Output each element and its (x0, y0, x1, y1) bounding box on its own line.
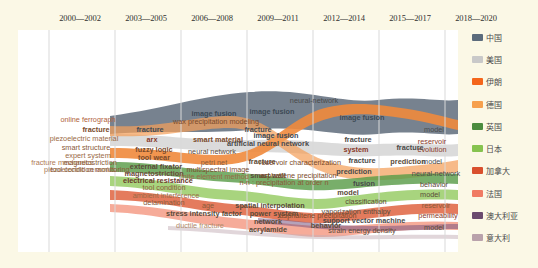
period-label-6: 2015—2017 (389, 13, 431, 23)
period-label-1: 2000—2002 (59, 13, 101, 23)
legend-swatch-icon (472, 212, 483, 219)
legend-item-9[interactable]: 澳大利亚 (472, 204, 538, 226)
legend-label: 日本 (486, 143, 502, 154)
keyword-label: tool wear (138, 154, 170, 162)
keyword-label: image fusion (249, 108, 294, 116)
keyword-label: arx (147, 136, 158, 144)
keyword-label: permeability (418, 212, 457, 220)
legend-swatch-icon (472, 145, 483, 152)
keyword-labels: online ferrographfracturepiezoelectric m… (18, 30, 458, 252)
legend-swatch-icon (472, 190, 483, 197)
keyword-label: reservoir (422, 202, 450, 210)
legend-swatch-icon (472, 34, 483, 41)
keyword-label: fusion (353, 180, 375, 188)
legend-label: 伊朗 (486, 76, 502, 87)
keyword-label: prediction (390, 158, 425, 166)
legend-item-10[interactable]: 意大利 (472, 227, 538, 249)
country-legend: 中国美国伊朗德国英国日本加拿大法国澳大利亚意大利 (472, 26, 538, 249)
keyword-label: neural network (188, 148, 236, 156)
keyword-label: classification (345, 198, 386, 206)
keyword-label: fracture (136, 126, 163, 134)
keyword-label: prediction (336, 168, 371, 176)
legend-item-3[interactable]: 伊朗 (472, 71, 538, 93)
legend-item-7[interactable]: 加拿大 (472, 160, 538, 182)
legend-item-5[interactable]: 英国 (472, 115, 538, 137)
legend-label: 德国 (486, 99, 502, 110)
keyword-label: model (337, 189, 359, 197)
keyword-label: neural-network (412, 170, 460, 178)
keyword-label: fracture (244, 126, 271, 134)
keyword-label: online ferrograph (60, 116, 115, 124)
period-label-4: 2009—2011 (257, 13, 298, 23)
keyword-label: reservoir characterization (259, 159, 341, 167)
keyword-label: ductile fracture (176, 222, 224, 230)
keyword-label: piezoelectric material (50, 135, 119, 143)
legend-label: 法国 (486, 188, 502, 199)
period-label-3: 2006—2008 (191, 13, 233, 23)
keyword-label: n-n : precipitation at order n (239, 179, 328, 187)
keyword-label: delamination (143, 199, 184, 207)
alluvial-chart-stage: 2000—20022003—20052006—20082009—20112012… (0, 0, 538, 268)
legend-label: 意大利 (486, 232, 510, 243)
legend-label: 澳大利亚 (486, 210, 518, 221)
legend-swatch-icon (472, 167, 483, 174)
period-label-2: 2003—2005 (125, 13, 167, 23)
legend-swatch-icon (472, 234, 483, 241)
legend-label: 英国 (486, 121, 502, 132)
keyword-label: artificial neural network (227, 140, 309, 148)
keyword-label: system (343, 146, 368, 154)
legend-label: 中国 (486, 32, 502, 43)
legend-label: 美国 (486, 54, 502, 65)
keyword-label: behavior (420, 181, 448, 189)
legend-item-4[interactable]: 德国 (472, 93, 538, 115)
legend-swatch-icon (472, 78, 483, 85)
keyword-label: model (422, 158, 442, 166)
keyword-label: model (424, 126, 444, 134)
legend-item-2[interactable]: 美国 (472, 48, 538, 70)
keyword-label: model (424, 224, 444, 232)
keyword-label: image fusion (339, 114, 384, 122)
legend-item-1[interactable]: 中国 (472, 26, 538, 48)
period-axis: 2000—20022003—20052006—20082009—20112012… (18, 13, 458, 29)
keyword-label: image fusion (191, 110, 236, 118)
legend-item-6[interactable]: 日本 (472, 137, 538, 159)
legend-item-8[interactable]: 法国 (472, 182, 538, 204)
legend-label: 加拿大 (486, 165, 510, 176)
keyword-label: fracture (344, 136, 371, 144)
keyword-label: tool condition monitoring (50, 166, 129, 174)
period-label-5: 2012—2014 (323, 13, 365, 23)
legend-swatch-icon (472, 56, 483, 63)
keyword-label: neural-network (290, 97, 338, 105)
legend-swatch-icon (472, 101, 483, 108)
keyword-label: behavior (311, 222, 341, 230)
keyword-label: model (420, 191, 440, 199)
keyword-label: fracture (82, 126, 109, 134)
period-label-7: 2018—2020 (455, 13, 497, 23)
keyword-label: fracture (348, 157, 375, 165)
keyword-label: acrylamide (249, 226, 287, 234)
legend-swatch-icon (472, 123, 483, 130)
keyword-label: stress intensity factor (166, 210, 242, 218)
keyword-label: asphaltene precipitation (279, 212, 356, 220)
keyword-label: fracture (396, 144, 423, 152)
